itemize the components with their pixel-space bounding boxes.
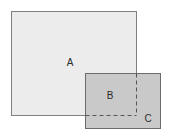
- region-label-c: C: [144, 113, 151, 124]
- overlapping-rectangles-diagram: A B C: [0, 0, 172, 134]
- region-label-b: B: [107, 90, 114, 101]
- region-label-a: A: [67, 57, 74, 68]
- diagram-canvas: A B C: [0, 0, 172, 134]
